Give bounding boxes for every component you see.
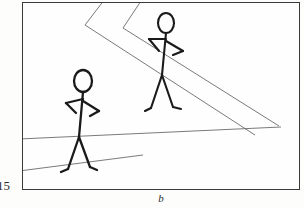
ground-line-4 bbox=[23, 155, 143, 171]
ground-line-3 bbox=[23, 127, 281, 139]
foot-front bbox=[90, 167, 97, 170]
head-icon bbox=[74, 70, 92, 92]
page-number: 15 bbox=[0, 178, 19, 193]
foot-front bbox=[173, 107, 181, 109]
head-icon bbox=[158, 13, 174, 33]
arm-front-lower bbox=[173, 51, 183, 55]
arm-back-lower bbox=[66, 103, 76, 113]
arm-front-upper bbox=[166, 41, 183, 51]
leg-front bbox=[162, 75, 173, 107]
foot-back bbox=[61, 169, 68, 172]
arm-back-upper bbox=[66, 99, 83, 103]
figure-caption-label: b bbox=[22, 192, 300, 205]
chevron-line-1 bbox=[85, 3, 255, 135]
arm-front-lower bbox=[90, 111, 99, 116]
arm-front-upper bbox=[83, 101, 99, 111]
ground-plane-lines bbox=[23, 3, 281, 171]
book-page: 15 bbox=[0, 0, 304, 208]
leg-back bbox=[151, 75, 162, 108]
foot-back bbox=[145, 108, 151, 111]
stick-figure-front bbox=[61, 70, 99, 172]
figure-panel bbox=[22, 2, 300, 190]
scene-illustration bbox=[23, 3, 298, 188]
